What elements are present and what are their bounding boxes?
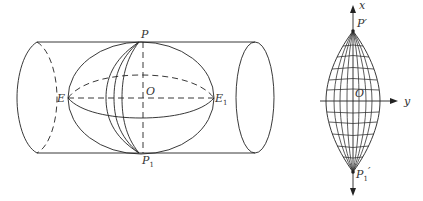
grid-meridian <box>353 31 366 172</box>
right-figure-graticule: x y P′ O P1′ <box>320 0 411 196</box>
diagram-canvas: P P1 E E1 O <box>0 0 423 201</box>
label-p1-prime: P1′ <box>355 165 371 183</box>
x-axis-arrow-up-icon <box>350 5 356 13</box>
grid-meridian <box>340 31 353 172</box>
label-p1: P1 <box>141 154 154 169</box>
meridian-2 <box>114 42 139 153</box>
label-p: P <box>140 28 149 41</box>
lens-left-edge <box>326 31 353 172</box>
label-p-prime: P′ <box>356 17 367 30</box>
cylinder-left-end-back <box>37 42 57 153</box>
grid-meridian <box>353 31 359 172</box>
lens-right-edge <box>353 31 380 172</box>
cylinder-right-end <box>236 42 274 153</box>
label-e1: E1 <box>214 92 228 107</box>
label-o-left: O <box>146 85 155 98</box>
x-axis-arrow-down-icon <box>350 188 356 196</box>
cylinder-left-end-front <box>17 42 37 153</box>
pole-top-dot <box>351 29 355 33</box>
meridian-1 <box>106 42 139 153</box>
equator-back <box>68 75 214 98</box>
equator-front <box>68 98 214 118</box>
y-axis-arrow-icon <box>390 98 398 104</box>
label-y: y <box>403 95 411 108</box>
grid-meridian <box>347 31 353 172</box>
grid-meridian <box>334 31 353 172</box>
pole-bottom-dot <box>351 170 355 174</box>
label-x: x <box>359 0 366 12</box>
label-o-right: O <box>355 87 364 100</box>
left-figure-cylinder-sphere: P P1 E E1 O <box>17 28 274 169</box>
grid-meridian <box>353 31 372 172</box>
label-e: E <box>56 92 65 105</box>
